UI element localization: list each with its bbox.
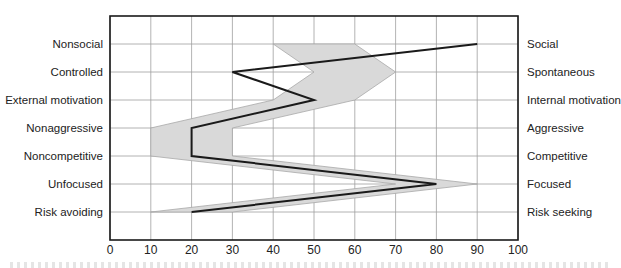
x-tick-label: 90	[471, 243, 485, 257]
cropped-caption	[10, 262, 610, 268]
x-tick-label: 80	[430, 243, 444, 257]
right-label: Aggressive	[527, 122, 584, 134]
x-tick-label: 10	[144, 243, 158, 257]
right-label: Competitive	[527, 150, 588, 162]
x-tick-label: 20	[185, 243, 199, 257]
right-label: Social	[527, 38, 558, 50]
left-label: External motivation	[5, 94, 103, 106]
left-label: Controlled	[51, 66, 103, 78]
right-label: Spontaneous	[527, 66, 595, 78]
left-label: Nonsocial	[53, 38, 104, 50]
x-tick-label: 40	[267, 243, 281, 257]
right-label: Focused	[527, 178, 571, 190]
x-tick-label: 0	[107, 243, 114, 257]
left-label: Noncompetitive	[24, 150, 103, 162]
x-tick-label: 50	[307, 243, 321, 257]
profile-chart: NonsocialControlledExternal motivationNo…	[0, 0, 621, 268]
left-label: Risk avoiding	[35, 206, 103, 218]
x-tick-label: 100	[508, 243, 528, 257]
left-label: Unfocused	[48, 178, 103, 190]
right-label: Internal motivation	[527, 94, 621, 106]
left-trait-labels: NonsocialControlledExternal motivationNo…	[5, 38, 103, 218]
left-label: Nonaggressive	[26, 122, 103, 134]
right-trait-labels: SocialSpontaneousInternal motivationAggr…	[527, 38, 621, 218]
x-tick-label: 30	[226, 243, 240, 257]
x-tick-label: 60	[348, 243, 362, 257]
x-tick-label: 70	[389, 243, 403, 257]
x-axis-tick-labels: 0102030405060708090100	[107, 243, 529, 257]
right-label: Risk seeking	[527, 206, 592, 218]
